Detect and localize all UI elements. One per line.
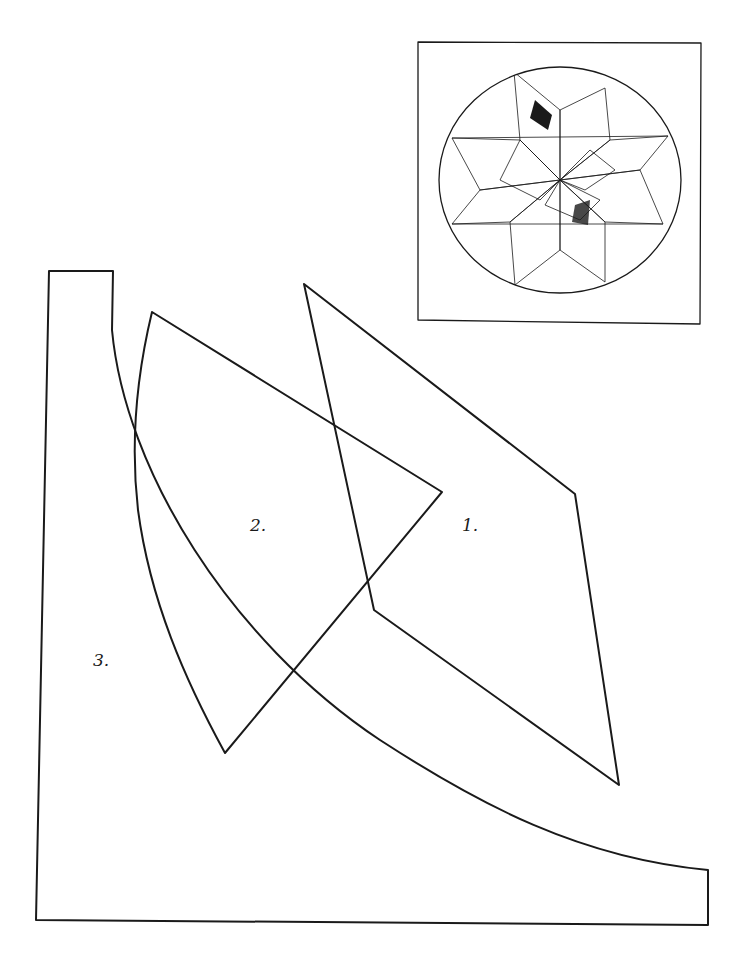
piece-2-outline [135, 312, 442, 753]
pattern-canvas [0, 0, 743, 960]
piece-3-label: 3. [93, 650, 109, 670]
piece-2-label: 2. [250, 515, 266, 535]
piece-1-label: 1. [462, 515, 478, 535]
block-preview [418, 42, 701, 324]
